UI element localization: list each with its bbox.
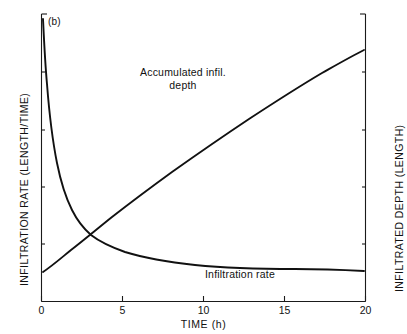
x-tick-label-20: 20	[360, 304, 372, 316]
annotation-accumulated-depth-line1: Accumulated infil.	[140, 66, 226, 79]
y-left-axis-title: INFILTRATION RATE (LENGTH/TIME)	[18, 93, 30, 286]
panel-label: (b)	[48, 16, 61, 27]
annotation-infiltration-rate: Infiltration rate	[205, 268, 275, 281]
y-right-axis-title: INFILTRATED DEPTH (LENGTH)	[393, 124, 405, 292]
plot-area: 0 5 10 15 20	[0, 0, 407, 334]
x-axis-title: TIME (h)	[0, 318, 407, 330]
x-tick-label-5: 5	[120, 304, 126, 316]
infiltration-figure: 0 5 10 15 20 (b) TIME (h) INFILTRATION R…	[0, 0, 407, 334]
x-tick-labels: 0 5 10 15 20	[39, 304, 372, 316]
x-tick-label-0: 0	[39, 304, 45, 316]
x-ticks	[42, 296, 366, 302]
annotation-accumulated-depth-line2: depth	[140, 79, 226, 92]
x-tick-label-10: 10	[198, 304, 210, 316]
annotation-accumulated-depth: Accumulated infil. depth	[140, 66, 226, 92]
x-tick-label-15: 15	[279, 304, 291, 316]
